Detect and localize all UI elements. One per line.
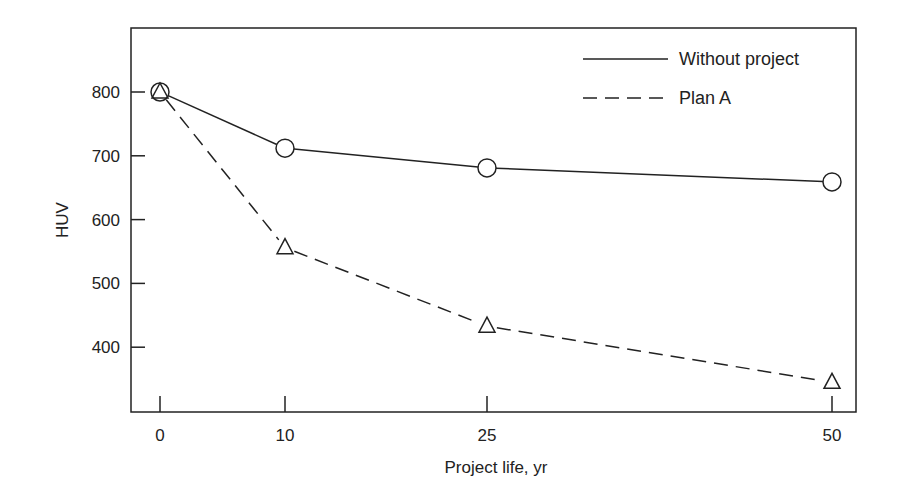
series-layer xyxy=(151,83,841,388)
x-tick-label: 50 xyxy=(823,426,842,445)
y-tick-label: 400 xyxy=(92,338,120,357)
series-segment xyxy=(168,96,277,145)
legend-label-without-project: Without project xyxy=(679,49,799,69)
series-segment xyxy=(294,251,477,322)
circle-marker-icon xyxy=(823,173,841,191)
y-tick-label: 800 xyxy=(92,83,120,102)
series-segment xyxy=(294,149,478,167)
circle-marker-icon xyxy=(276,139,294,157)
x-axis: 0102550 xyxy=(155,396,841,445)
y-tick-label: 600 xyxy=(92,211,120,230)
series-plan-a xyxy=(152,83,840,388)
triangle-marker-icon xyxy=(824,373,840,388)
x-tick-label: 10 xyxy=(276,426,295,445)
legend: Without project Plan A xyxy=(583,49,799,108)
plot-frame xyxy=(131,28,856,412)
circle-marker-icon xyxy=(478,159,496,177)
series-segment xyxy=(497,328,822,381)
x-tick-label: 0 xyxy=(155,426,164,445)
y-tick-label: 500 xyxy=(92,274,120,293)
x-tick-label: 25 xyxy=(478,426,497,445)
triangle-marker-icon xyxy=(277,239,293,254)
y-tick-label: 700 xyxy=(92,147,120,166)
line-chart: 400500600700800 0102550 Without project … xyxy=(0,0,906,500)
y-axis-title: HUV xyxy=(53,201,72,238)
y-axis: 400500600700800 xyxy=(92,83,145,357)
x-axis-title: Project life, yr xyxy=(445,458,548,477)
series-segment xyxy=(496,168,823,181)
triangle-marker-icon xyxy=(479,317,495,332)
legend-label-plan-a: Plan A xyxy=(679,88,731,108)
series-without-project xyxy=(151,83,841,191)
